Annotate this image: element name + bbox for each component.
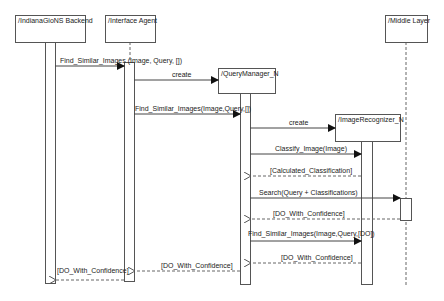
activation-image-recognizer — [362, 142, 373, 285]
message-5: Classify_Image(Image) — [250, 145, 361, 154]
svg-text:[DO_With_Confidence]: [DO_With_Confidence] — [161, 262, 233, 270]
activation-query-manager — [241, 94, 251, 285]
svg-text:Classify_Image(Image): Classify_Image(Image) — [275, 145, 347, 153]
svg-text:create: create — [172, 71, 192, 78]
svg-text:create: create — [289, 119, 309, 126]
svg-text:[Calculated_Classification]: [Calculated_Classification] — [270, 167, 352, 175]
participant-label: /IndianaGioNS Backend — [18, 17, 93, 24]
sequence-diagram: /IndianaGioNS Backend /Interface Agent /… — [0, 0, 444, 301]
svg-text:Find_Similar_Images(Image,Quer: Find_Similar_Images(Image,Query,[DO]) — [248, 230, 375, 238]
activation-interface-agent — [125, 63, 135, 282]
message-2: create — [134, 71, 218, 80]
participant-backend[interactable]: /IndianaGioNS Backend — [16, 16, 93, 43]
participant-label: /QueryManager_N — [221, 70, 279, 78]
participant-query-manager[interactable]: /QueryManager_N — [219, 69, 279, 94]
svg-text:[DO_With_Confidence]: [DO_With_Confidence] — [57, 267, 129, 275]
message-1: Find_Similar_Images (Image, Query, []) — [55, 57, 182, 66]
message-10: [DO_With_Confidence] — [251, 254, 361, 263]
svg-text:[DO_With_Confidence]: [DO_With_Confidence] — [273, 210, 345, 218]
participant-image-recognizer[interactable]: /ImageRecognizer_N — [336, 115, 404, 142]
message-3: Find_Similar_Images(Image,Query,[]) — [134, 105, 251, 114]
svg-text:[DO_With_Confidence]: [DO_With_Confidence] — [281, 254, 353, 262]
message-9: Find_Similar_Images(Image,Query,[DO]) — [248, 230, 375, 241]
activation-middle-layer — [401, 199, 412, 221]
participant-label: /Middle Layer — [388, 17, 431, 25]
svg-text:Search(Query + Classifications: Search(Query + Classifications) — [259, 189, 358, 197]
message-7: Search(Query + Classifications) — [250, 189, 400, 198]
message-12: [DO_With_Confidence] — [56, 267, 129, 280]
participant-middle-layer[interactable]: /Middle Layer — [386, 16, 431, 43]
participant-interface-agent[interactable]: /Interface Agent — [106, 16, 158, 43]
activation-backend — [46, 43, 56, 284]
message-11: [DO_With_Confidence] — [135, 262, 240, 271]
participant-label: /Interface Agent — [108, 17, 157, 25]
message-4: create — [250, 119, 335, 128]
svg-text:Find_Similar_Images (Image, Qu: Find_Similar_Images (Image, Query, []) — [60, 57, 182, 65]
message-8: [DO_With_Confidence] — [251, 210, 400, 219]
message-6: [Calculated_Classification] — [251, 167, 361, 176]
svg-text:Find_Similar_Images(Image,Quer: Find_Similar_Images(Image,Query,[]) — [135, 105, 251, 113]
participant-label: /ImageRecognizer_N — [338, 116, 404, 124]
